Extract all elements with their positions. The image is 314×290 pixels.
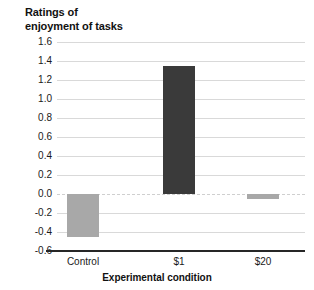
bar-chart-figure: Ratings of enjoyment of tasks 1.61.41.21…	[0, 0, 314, 290]
x-tick-label: $20	[223, 256, 303, 268]
y-tick-label: 1.6	[22, 37, 52, 47]
bar	[67, 194, 99, 237]
y-axis-tick-labels: 1.61.41.21.00.80.60.40.20.0-0.2-0.4-0.6	[20, 42, 52, 251]
y-tick-label: 1.4	[22, 56, 52, 66]
y-tick-label: 1.2	[22, 75, 52, 85]
gridline	[57, 61, 305, 62]
y-tick-label: 0.2	[22, 170, 52, 180]
y-tick-label: 0.0	[22, 189, 52, 199]
y-tick-label: 1.0	[22, 94, 52, 104]
y-tick-label: -0.2	[22, 208, 52, 218]
chart-title: Ratings of enjoyment of tasks	[25, 6, 205, 33]
y-tick-label: -0.4	[22, 227, 52, 237]
plot-area	[57, 42, 305, 251]
x-axis-line	[46, 250, 305, 252]
x-axis-title: Experimental condition	[0, 272, 314, 283]
x-tick-label: $1	[139, 256, 219, 268]
y-tick-label: 0.8	[22, 113, 52, 123]
bar	[163, 66, 195, 194]
y-tick-label: 0.6	[22, 132, 52, 142]
x-axis-tick-labels: Control$1$20	[57, 256, 305, 270]
bar	[247, 194, 279, 199]
y-tick-label: 0.4	[22, 151, 52, 161]
gridline	[57, 42, 305, 43]
x-tick-label: Control	[43, 256, 123, 268]
